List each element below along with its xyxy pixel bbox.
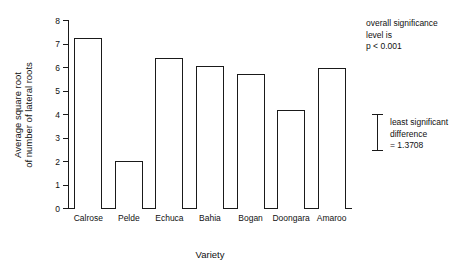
y-axis-tick: 6 [63, 67, 68, 68]
y-axis-tick-label: 5 [55, 87, 60, 96]
bar-amaroo [318, 68, 346, 209]
y-axis-tick-mark [63, 91, 68, 92]
y-axis-tick-mark [63, 208, 68, 209]
x-axis-label-echuca: Echuca [149, 214, 190, 223]
x-axis-label-bahia: Bahia [190, 214, 231, 223]
y-axis-title-line1: Average square root [12, 40, 23, 190]
y-axis-tick-mark [63, 138, 68, 139]
y-axis-tick-mark [63, 44, 68, 45]
y-axis-tick: 3 [63, 138, 68, 139]
y-axis-tick-label: 4 [55, 110, 60, 119]
bar-bogan [237, 74, 265, 209]
y-axis-title-line2: of number of lateral roots [23, 40, 34, 190]
y-axis-tick-label: 1 [55, 181, 60, 190]
bar-calrose [74, 38, 102, 209]
x-axis-label-calrose: Calrose [68, 214, 109, 223]
y-axis-tick-mark [63, 114, 68, 115]
chart-figure: Average square root of number of lateral… [0, 0, 462, 275]
y-axis-tick-label: 0 [55, 204, 60, 213]
y-axis-tick-mark [63, 185, 68, 186]
lsd-line1: least significant [390, 117, 448, 129]
y-axis-tick: 5 [63, 91, 68, 92]
lsd-line3: = 1.3708 [390, 140, 448, 152]
overall-significance-line2: level is [366, 30, 438, 42]
y-axis-tick-mark [63, 161, 68, 162]
y-axis-tick: 1 [63, 185, 68, 186]
y-axis-tick: 0 [63, 208, 68, 209]
x-axis-label-bogan: Bogan [230, 214, 271, 223]
y-axis-tick-mark [63, 20, 68, 21]
lsd-error-bar-icon [372, 114, 383, 151]
plot-area: 012345678 CalrosePeldeEchucaBahiaBoganDo… [68, 20, 352, 208]
overall-significance-line3: p < 0.001 [366, 41, 438, 53]
bar-echuca [155, 58, 183, 209]
y-axis-tick: 7 [63, 44, 68, 45]
x-axis-title: Variety [68, 250, 352, 260]
y-axis-tick: 2 [63, 161, 68, 162]
y-axis-tick-label: 8 [55, 16, 60, 25]
y-axis-tick-mark [63, 67, 68, 68]
y-axis-title: Average square root of number of lateral… [12, 40, 34, 190]
y-axis-tick: 8 [63, 20, 68, 21]
y-axis-tick-label: 2 [55, 157, 60, 166]
y-axis-tick-label: 3 [55, 134, 60, 143]
lsd-error-bar-cap-top [372, 114, 383, 115]
lsd-error-bar-stem [377, 114, 378, 151]
y-axis-tick-label: 7 [55, 40, 60, 49]
y-axis-line [68, 20, 69, 209]
bar-pelde [115, 161, 143, 209]
lsd-annotation: least significant difference = 1.3708 [390, 117, 448, 152]
y-axis-tick-label: 6 [55, 63, 60, 72]
lsd-line2: difference [390, 129, 448, 141]
x-axis-label-pelde: Pelde [109, 214, 150, 223]
overall-significance-line1: overall significance [366, 18, 438, 30]
lsd-error-bar-cap-bottom [372, 150, 383, 151]
bar-doongara [277, 110, 305, 209]
x-axis-label-doongara: Doongara [271, 214, 312, 223]
overall-significance-annotation: overall significance level is p < 0.001 [366, 18, 438, 53]
y-axis-tick: 4 [63, 114, 68, 115]
bar-bahia [196, 66, 224, 209]
x-axis-label-amaroo: Amaroo [311, 214, 352, 223]
